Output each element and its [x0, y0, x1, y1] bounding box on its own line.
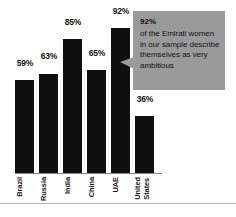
category-label-united-states: United States [133, 177, 157, 217]
category-label-line: Russia [39, 177, 48, 201]
category-label-line: UAE [111, 177, 120, 193]
bar-value-india: 85% [59, 17, 87, 27]
bar-uae [111, 28, 130, 173]
bar-slot-india: 85% [63, 8, 82, 173]
bar-value-uae: 92% [107, 6, 135, 16]
category-label-line: States [142, 177, 151, 200]
bar-chart-figure: 59% 63% 85% 65% 92% 36% Brazil [0, 0, 236, 217]
bar-russia [39, 74, 58, 174]
bar-united-states [135, 116, 154, 173]
callout-box: 92% of the Emirati women in our sample d… [133, 11, 225, 90]
bar-china [87, 70, 106, 173]
callout-headline: 92% [140, 16, 220, 27]
x-axis-line [15, 173, 162, 174]
bottom-divider [0, 203, 236, 204]
category-label-line: United [133, 177, 142, 200]
category-label-line: Brazil [15, 177, 24, 197]
callout-pointer [120, 57, 134, 69]
callout-text: of the Emirati women in our sample descr… [140, 29, 220, 71]
category-label-india: India [63, 177, 82, 217]
category-label-russia: Russia [39, 177, 58, 217]
bar-value-china: 65% [83, 48, 111, 58]
bar-brazil [15, 80, 34, 173]
bar-slot-china: 65% [87, 8, 106, 173]
category-label-uae: UAE [111, 177, 130, 217]
bar-slot-uae: 92% [111, 8, 130, 173]
bar-india [63, 39, 82, 173]
category-label-line: China [87, 177, 96, 197]
bar-slot-russia: 63% [39, 8, 58, 173]
category-label-brazil: Brazil [15, 177, 34, 217]
category-label-line: India [63, 177, 72, 194]
bar-slot-brazil: 59% [15, 8, 34, 173]
category-label-china: China [87, 177, 106, 217]
bar-value-united-states: 36% [131, 94, 159, 104]
bar-value-russia: 63% [35, 51, 63, 61]
